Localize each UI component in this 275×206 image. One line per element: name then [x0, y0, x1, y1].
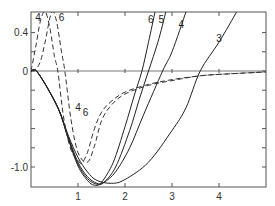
y-tick-label: 0.4: [14, 27, 28, 38]
x-tick-label: 4: [216, 191, 222, 202]
curve-6-dashed: [31, 11, 266, 162]
curve-label-4: 4: [75, 102, 81, 113]
x-tick-label: 2: [122, 191, 128, 202]
curves: [31, 11, 266, 185]
curve-label-4: 4: [35, 12, 41, 23]
x-tick-label: 3: [169, 191, 175, 202]
curve-4-dashed: [31, 11, 266, 163]
curve-label-6: 6: [83, 107, 89, 118]
curve-labels: 46654346: [35, 12, 222, 118]
curve-label-3: 3: [216, 33, 222, 44]
curve-6: [31, 12, 155, 186]
curve-label-4: 4: [179, 19, 185, 30]
y-tick-label: -1.0: [11, 162, 29, 173]
y-tick-label: 0: [22, 66, 28, 77]
curve-label-6: 6: [59, 12, 65, 23]
chart: 12340.40-1.0 46654346: [0, 0, 275, 206]
plot-area-border: [31, 12, 266, 187]
curve-4: [31, 12, 186, 184]
curve-label-5: 5: [158, 14, 164, 25]
curve-label-6: 6: [148, 14, 154, 25]
plot-frame: [31, 12, 266, 187]
axis-ticks: 12340.40-1.0: [11, 12, 266, 202]
x-tick-label: 1: [75, 191, 81, 202]
